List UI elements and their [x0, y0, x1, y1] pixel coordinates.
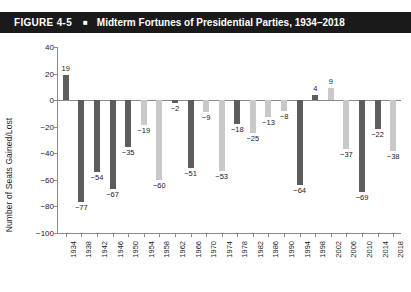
- bar-value-label: 4: [313, 84, 317, 93]
- bar[interactable]: [281, 100, 287, 111]
- bar[interactable]: [250, 100, 256, 133]
- bar-group: −19: [136, 47, 152, 233]
- y-axis-tick-label: −80: [40, 202, 54, 211]
- bar-group: −53: [214, 47, 230, 233]
- bar-value-label: −2: [171, 104, 180, 113]
- bar-group: −77: [74, 47, 90, 233]
- x-axis-tick-mark: [253, 233, 254, 237]
- bar-group: −67: [105, 47, 121, 233]
- bar-value-label: −8: [280, 112, 289, 121]
- bar[interactable]: [63, 75, 69, 100]
- bar[interactable]: [125, 100, 131, 147]
- figure-number: FIGURE 4-5: [14, 17, 72, 28]
- x-axis-tick-label: 1990: [287, 241, 296, 258]
- bar-group: −2: [167, 47, 183, 233]
- x-axis-tick-label: 1978: [240, 241, 249, 258]
- bar-group: −8: [276, 47, 292, 233]
- x-axis-tick-label: 2006: [349, 241, 358, 258]
- chart-axes: 19−77−54−67−35−19−60−2−51−9−53−18−25−13−…: [57, 47, 401, 233]
- bar[interactable]: [78, 100, 84, 202]
- x-axis: 1934193819421946195019541958196219661970…: [57, 233, 401, 279]
- x-axis-tick-mark: [128, 233, 129, 237]
- x-axis-tick-mark: [362, 233, 363, 237]
- figure-title-banner: FIGURE 4-5 ■ Midterm Fortunes of Preside…: [0, 12, 411, 33]
- x-axis-tick-label: 2018: [396, 241, 405, 258]
- bar-group: −18: [230, 47, 246, 233]
- bar[interactable]: [234, 100, 240, 124]
- y-axis-title: Number of Seats Gained/Lost: [4, 0, 16, 85]
- x-axis-tick-mark: [237, 233, 238, 237]
- x-axis-tick-mark: [378, 233, 379, 237]
- bar-series-group: 19−77−54−67−35−19−60−2−51−9−53−18−25−13−…: [58, 47, 401, 233]
- bar-group: −9: [198, 47, 214, 233]
- bar[interactable]: [203, 100, 209, 112]
- x-axis-tick-label: 1986: [271, 241, 280, 258]
- bar-value-label: −54: [91, 173, 104, 182]
- bar[interactable]: [359, 100, 365, 192]
- bar[interactable]: [328, 88, 334, 100]
- bar-value-label: −9: [202, 113, 211, 122]
- bar[interactable]: [343, 100, 349, 149]
- x-axis-tick-label: 1958: [162, 241, 171, 258]
- y-axis-tick-mark: [54, 153, 58, 154]
- bar[interactable]: [312, 95, 318, 100]
- x-axis-tick-label: 1938: [84, 241, 93, 258]
- x-axis-tick-label: 2002: [334, 241, 343, 258]
- bar-group: −35: [120, 47, 136, 233]
- bar[interactable]: [297, 100, 303, 185]
- x-axis-tick-mark: [315, 233, 316, 237]
- x-axis-tick-label: 2010: [365, 241, 374, 258]
- x-axis-tick-label: 2014: [381, 241, 390, 258]
- bar-group: −37: [339, 47, 355, 233]
- x-axis-tick-mark: [222, 233, 223, 237]
- bar[interactable]: [265, 100, 271, 117]
- bar-value-label: −22: [371, 130, 384, 139]
- bar-group: −64: [292, 47, 308, 233]
- y-axis-tick-label: −40: [40, 149, 54, 158]
- bar-value-label: −19: [137, 126, 150, 135]
- bar[interactable]: [141, 100, 147, 125]
- x-axis-tick-mark: [300, 233, 301, 237]
- bar-value-label: −69: [356, 193, 369, 202]
- bar-group: 9: [323, 47, 339, 233]
- x-axis-tick-mark: [97, 233, 98, 237]
- x-axis-tick-label: 1970: [209, 241, 218, 258]
- bar[interactable]: [188, 100, 194, 168]
- y-axis-tick-mark: [54, 74, 58, 75]
- bar-group: −54: [89, 47, 105, 233]
- x-axis-tick-mark: [268, 233, 269, 237]
- bar[interactable]: [110, 100, 116, 189]
- bar[interactable]: [94, 100, 100, 172]
- bar-value-label: −25: [246, 134, 259, 143]
- bar-group: −60: [152, 47, 168, 233]
- bar-value-label: −13: [262, 118, 275, 127]
- figure-container: FIGURE 4-5 ■ Midterm Fortunes of Preside…: [0, 0, 411, 292]
- x-axis-tick-mark: [284, 233, 285, 237]
- x-axis-tick-label: 1998: [318, 241, 327, 258]
- bar[interactable]: [156, 100, 162, 180]
- bar[interactable]: [219, 100, 225, 170]
- y-axis-tick-mark: [54, 47, 58, 48]
- y-axis-tick-label: 40: [45, 43, 54, 52]
- x-axis-tick-label: 1994: [303, 241, 312, 258]
- x-axis-tick-label: 1962: [178, 241, 187, 258]
- x-axis-tick-mark: [144, 233, 145, 237]
- bar-group: −51: [183, 47, 199, 233]
- bar-value-label: −77: [75, 203, 88, 212]
- x-axis-tick-label: 1982: [256, 241, 265, 258]
- bar[interactable]: [390, 100, 396, 150]
- y-axis-tick-mark: [54, 127, 58, 128]
- x-axis-tick-mark: [346, 233, 347, 237]
- x-axis-tick-mark: [331, 233, 332, 237]
- bar[interactable]: [172, 100, 178, 103]
- x-axis-tick-label: 1934: [69, 241, 78, 258]
- bar-value-label: −53: [215, 172, 228, 181]
- chart-plot-area: Number of Seats Gained/Lost 40200−20−40−…: [0, 33, 411, 292]
- x-axis-tick-label: 1946: [116, 241, 125, 258]
- x-axis-tick-mark: [206, 233, 207, 237]
- bar-group: −69: [354, 47, 370, 233]
- y-axis-tick-label: 20: [45, 69, 54, 78]
- x-axis-tick-mark: [159, 233, 160, 237]
- bar-group: −13: [261, 47, 277, 233]
- bar[interactable]: [375, 100, 381, 129]
